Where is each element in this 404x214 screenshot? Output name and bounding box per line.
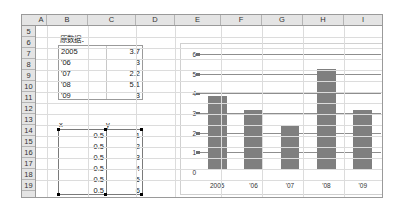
column-header-F[interactable]: F (221, 15, 262, 25)
y-axis-label: 1 (192, 149, 196, 156)
grid-vline (344, 26, 345, 197)
xy-data-table[interactable]: 0.510.520.530.540.550.56 (58, 129, 143, 195)
row-header-9[interactable]: 9 (22, 70, 35, 81)
x-cell: 0.5 (59, 185, 104, 196)
grid-vline (88, 26, 89, 197)
row-header-17[interactable]: 17 (22, 158, 35, 169)
grid-hline (36, 125, 382, 126)
chart-plot-area: 01234562005'06'07'08'09 (199, 54, 381, 170)
grid-vline (262, 26, 263, 197)
y-axis-label: 3 (192, 110, 196, 117)
row-header-8[interactable]: 8 (22, 59, 35, 70)
row-header-13[interactable]: 13 (22, 114, 35, 125)
chart-bar[interactable] (244, 110, 263, 169)
chart-gridline (199, 74, 381, 75)
grid-vline (47, 26, 48, 197)
column-header-C[interactable]: C (88, 15, 136, 25)
x-axis-category-label: '09 (345, 182, 381, 190)
grid-hline (36, 70, 382, 71)
spreadsheet-screenshot: ABCDEFGHI 5678910111213141516171819 原数据：… (0, 0, 404, 214)
y-axis-label: 6 (192, 51, 196, 58)
grid-hline (36, 114, 382, 115)
row-header-15[interactable]: 15 (22, 136, 35, 147)
row-header-10[interactable]: 10 (22, 81, 35, 92)
selection-handle-tm[interactable] (104, 128, 107, 131)
row-header-column: 5678910111213141516171819 (22, 26, 36, 197)
grid-hline (36, 59, 382, 60)
column-header-E[interactable]: E (175, 15, 221, 25)
bar-chart[interactable]: 01234562005'06'07'08'09 (180, 43, 382, 195)
column-header-G[interactable]: G (262, 15, 303, 25)
row-header-19[interactable]: 19 (22, 180, 35, 191)
worksheet[interactable]: ABCDEFGHI 5678910111213141516171819 原数据：… (21, 14, 383, 198)
x-axis-category-label: 2005 (199, 182, 235, 190)
row-header-12[interactable]: 12 (22, 103, 35, 114)
row-header-5[interactable]: 5 (22, 26, 35, 37)
grid-hline (36, 37, 382, 38)
column-header-H[interactable]: H (303, 15, 344, 25)
grid-hline (36, 92, 382, 93)
column-header-row: ABCDEFGHI (22, 15, 382, 26)
y-axis-tickmark (196, 132, 200, 135)
chart-bar[interactable] (317, 69, 336, 169)
grid-vline (175, 26, 176, 197)
chart-gridline (199, 93, 381, 94)
grid-hline (36, 180, 382, 181)
y-axis-tickmark (196, 53, 200, 56)
chart-gridline (199, 54, 381, 55)
grid-hline (36, 147, 382, 148)
grid-hline (36, 136, 382, 137)
row-header-16[interactable]: 16 (22, 147, 35, 158)
selection-handle-br[interactable] (140, 193, 143, 196)
grid-vline (221, 26, 222, 197)
selection-handle-bm[interactable] (104, 193, 107, 196)
grid-vline (136, 26, 137, 197)
x-axis-category-label: '06 (235, 182, 271, 190)
y-axis-tickmark (196, 73, 200, 76)
column-header-A[interactable]: A (36, 15, 47, 25)
cell-grid[interactable]: 原数据： 20053.7'063'072.2'085.1'093 x y 0.5… (36, 26, 382, 197)
grid-hline (36, 158, 382, 159)
column-header-B[interactable]: B (47, 15, 88, 25)
row-header-18[interactable]: 18 (22, 169, 35, 180)
table-row[interactable]: 0.56 (59, 185, 142, 196)
y-axis-tickmark (196, 151, 200, 154)
row-header-14[interactable]: 14 (22, 125, 35, 136)
y-axis-label: 4 (192, 90, 196, 97)
grid-hline (36, 169, 382, 170)
y-axis-label: 5 (192, 70, 196, 77)
row-header-7[interactable]: 7 (22, 48, 35, 59)
grid-hline (36, 81, 382, 82)
row-header-11[interactable]: 11 (22, 92, 35, 103)
grid-hline (36, 48, 382, 49)
selection-handle-bl[interactable] (57, 193, 60, 196)
selection-handle-tr[interactable] (140, 128, 143, 131)
column-header-I[interactable]: I (344, 15, 383, 25)
x-axis-category-label: '08 (308, 182, 344, 190)
column-header-D[interactable]: D (136, 15, 175, 25)
selection-handle-tl[interactable] (57, 128, 60, 131)
row-header-6[interactable]: 6 (22, 37, 35, 48)
grid-vline (303, 26, 304, 197)
grid-hline (36, 103, 382, 104)
chart-bar[interactable] (353, 110, 372, 169)
